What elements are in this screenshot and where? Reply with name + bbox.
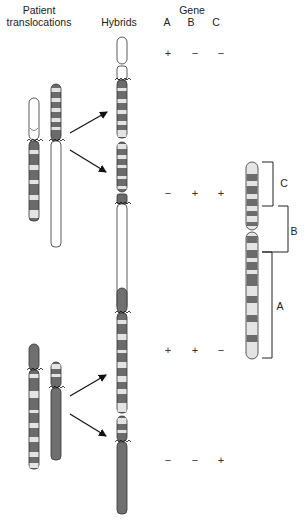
hybrid-chromosome-3 <box>115 288 131 413</box>
patient-chromosome-2 <box>49 84 65 247</box>
reference-chromosome <box>246 162 258 359</box>
hybrid-chromosome-2 <box>115 142 131 310</box>
hybrid-chromosome-4 <box>115 416 131 514</box>
patient-chromosome-1 <box>27 98 43 221</box>
arrow-to-hybrid-3 <box>70 375 106 396</box>
bracket-b <box>262 206 288 252</box>
arrow-to-hybrid-1 <box>70 112 107 133</box>
bracket-c <box>262 162 273 206</box>
hybrid-chromosome-1 <box>115 37 131 138</box>
bracket-a <box>262 252 272 358</box>
arrow-to-hybrid-4 <box>70 414 106 436</box>
chromosome-diagram <box>0 0 308 520</box>
arrow-to-hybrid-2 <box>70 150 106 172</box>
patient-chromosome-4 <box>49 362 65 460</box>
patient-chromosome-3 <box>27 344 43 469</box>
